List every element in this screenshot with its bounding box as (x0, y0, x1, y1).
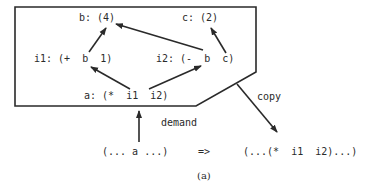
expression-after: (...(* i1 i2)...) (243, 146, 357, 158)
node-b: b: (4) (79, 12, 115, 24)
expression-before: (... a ...) (102, 146, 168, 158)
node-c: c: (2) (182, 12, 218, 24)
edge-i2-to-c (211, 28, 226, 53)
diagram-canvas (0, 0, 376, 191)
rewrite-arrow: => (198, 146, 210, 158)
demand-label: demand (161, 117, 197, 129)
edge-a-to-i1 (91, 67, 130, 89)
node-i1: i1: (+ b 1) (34, 53, 112, 65)
copy-label: copy (257, 91, 281, 103)
node-a: a: (* i1 i2) (84, 90, 168, 102)
edge-i1-to-b (89, 28, 106, 52)
edge-i2-to-b (116, 24, 203, 50)
edge-a-to-i2 (149, 66, 201, 89)
figure-caption: (a) (197, 170, 211, 182)
node-i2: i2: (- b c) (156, 53, 234, 65)
